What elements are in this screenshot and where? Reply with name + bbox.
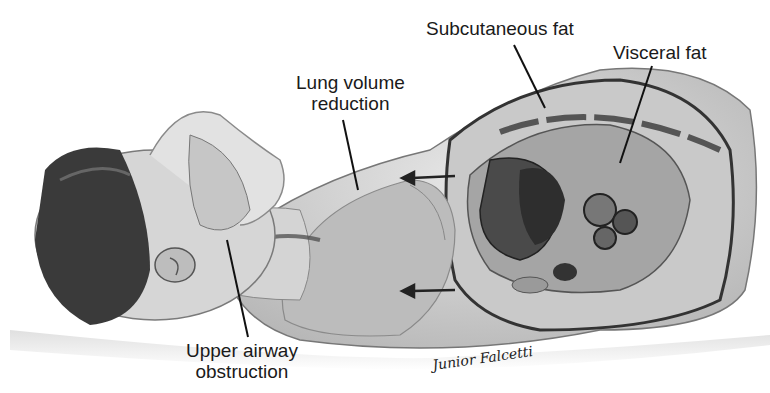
label-airway-line1: Upper airway: [186, 340, 298, 361]
label-airway-line2: obstruction: [186, 361, 298, 382]
anatomy-illustration: Subcutaneous fat Visceral fat Lung volum…: [0, 0, 770, 393]
label-visceral-fat: Visceral fat: [613, 42, 707, 63]
label-subcutaneous-fat: Subcutaneous fat: [426, 18, 574, 39]
label-lung-line1: Lung volume: [296, 72, 405, 93]
label-lung-line2: reduction: [296, 93, 405, 114]
label-upper-airway-obstruction: Upper airway obstruction: [186, 340, 298, 382]
label-lung-volume-reduction: Lung volume reduction: [296, 72, 405, 114]
